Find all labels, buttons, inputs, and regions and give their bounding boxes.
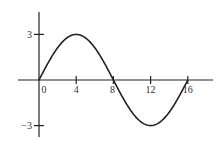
y-tick-label: 3	[27, 29, 32, 40]
x-tick-label: 12	[146, 84, 156, 95]
sine-chart: 0481216 3−3	[0, 0, 221, 143]
x-tick-label: 4	[74, 84, 79, 95]
x-tick-label: 8	[110, 84, 115, 95]
y-tick-label: −3	[21, 120, 32, 131]
x-tick-label: 0	[42, 84, 47, 95]
